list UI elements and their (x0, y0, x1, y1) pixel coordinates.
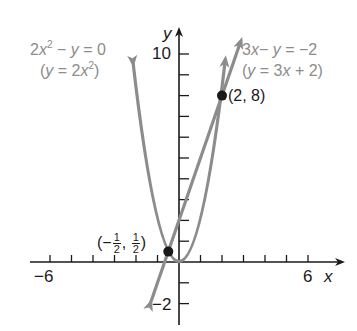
x-tick-label-neg6: −6 (34, 268, 53, 285)
denominator: 2 (113, 244, 121, 255)
point-b-close: ) (141, 234, 146, 251)
line-eq-y: y (273, 41, 281, 58)
line-alt-end: + 2) (290, 62, 322, 79)
line-eq-end: = −2 (281, 41, 317, 58)
line-eq-minus: − (259, 41, 273, 58)
point-label-2-8: (2, 8) (228, 88, 265, 104)
x-tick-label-6: 6 (303, 268, 312, 285)
line-alt-mid: = 3 (255, 62, 282, 79)
point-b-comma: , (122, 234, 131, 251)
y-axis (179, 32, 189, 325)
intersection-point-neg-half-half (163, 247, 173, 257)
linear-line (150, 43, 240, 305)
line-eq-coef: 3 (242, 41, 251, 58)
parabola-eq-y: y (71, 41, 79, 58)
line-alt-equation-label: (y = 3x + 2) (242, 63, 323, 79)
point-label-neg-half-half: (−12, 12) (97, 232, 146, 255)
x-axis-label: x (324, 268, 333, 285)
fraction-one-half: 12 (113, 232, 121, 255)
parabola-alt-equation-label: (y = 2x2) (40, 63, 99, 79)
y-axis-ticks (179, 54, 189, 304)
line-eq-x: x (251, 41, 259, 58)
y-axis-label: y (163, 25, 172, 42)
parabola-eq-minus: − (52, 41, 70, 58)
parabola-eq-coef: 2 (30, 41, 39, 58)
y-tick-label-neg2: −2 (152, 296, 171, 313)
fraction-one-half: 12 (132, 232, 140, 255)
parabola-eq-x: x (39, 41, 47, 58)
y-tick-label-10: 10 (152, 45, 171, 62)
parabola-alt-mid: = 2 (53, 62, 80, 79)
intersection-point-2-8 (217, 91, 227, 101)
parabola-eq-end: = 0 (79, 41, 106, 58)
point-b-open: (− (97, 234, 112, 251)
denominator: 2 (132, 244, 140, 255)
paren-close: ) (94, 62, 99, 79)
parabola-equation-label: 2x2 − y = 0 (30, 42, 106, 58)
line-equation-label: 3x− y = −2 (242, 42, 317, 58)
